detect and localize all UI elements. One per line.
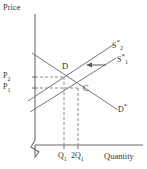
curve-label-supply-1-subscript: 1 — [125, 59, 128, 65]
y-axis-title: Price — [3, 3, 20, 12]
curve-label-demand: D* — [118, 103, 127, 114]
y-tick-label-p1: P1 — [3, 83, 10, 93]
x-tick-label-q1-subscript: 1 — [64, 156, 67, 162]
supply-curve-s2 — [28, 45, 113, 101]
x-tick-label-2q1-subscript: 1 — [81, 156, 84, 162]
supply-curve-s1 — [30, 58, 116, 112]
point-label-c: C — [83, 84, 89, 93]
point-label-d: D — [62, 62, 68, 71]
chart-canvas — [0, 0, 147, 169]
axis-break-zigzag-icon — [31, 137, 39, 157]
curve-label-supply-2-subscript: 2 — [120, 45, 123, 51]
demand-curve-d — [32, 53, 118, 110]
y-tick-label-p2-subscript: 2 — [7, 76, 10, 82]
supply-shift-arrow-icon — [86, 62, 106, 67]
x-axis-title: Quantity — [104, 152, 134, 161]
x-tick-label-2q1-base: 2Q — [71, 151, 81, 160]
y-tick-label-p2: P2 — [3, 72, 10, 82]
x-tick-label-2q1: 2Q1 — [71, 152, 84, 162]
y-tick-label-p1-subscript: 1 — [7, 87, 10, 93]
curve-label-demand-star: * — [124, 102, 128, 110]
curve-label-supply-2: S*2 — [112, 39, 123, 51]
x-tick-label-q1: Q1 — [58, 152, 67, 162]
supply-demand-figure: Price Quantity P2 P1 Q1 2Q1 S*2 S*1 D* D… — [0, 0, 147, 169]
curve-label-supply-1: S*1 — [117, 53, 128, 65]
